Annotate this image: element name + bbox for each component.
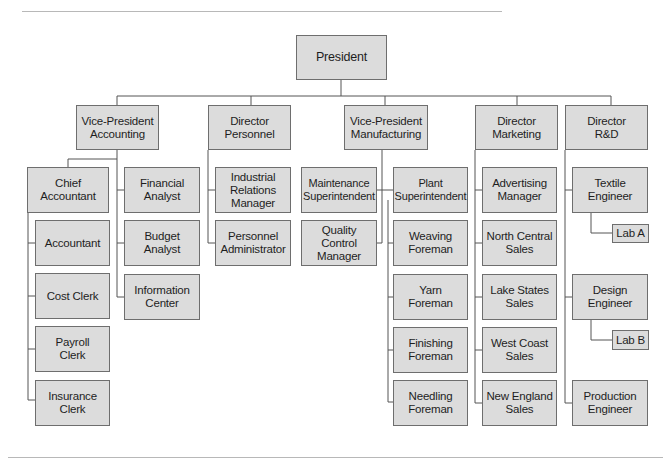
box-accountant: Accountant: [35, 220, 110, 266]
box-yarn-foreman: Yarn Foreman: [393, 274, 468, 320]
box-north-central-sales: North Central Sales: [482, 220, 557, 266]
box-quality-control-manager: Quality Control Manager: [301, 220, 377, 266]
box-payroll-clerk: Payroll Clerk: [35, 326, 110, 372]
box-lab-b: Lab B: [612, 330, 649, 350]
box-needling-foreman: Needling Foreman: [393, 380, 468, 426]
box-textile-engineer: Textile Engineer: [572, 167, 648, 213]
box-cost-clerk: Cost Clerk: [35, 273, 110, 319]
box-advertising-manager: Advertising Manager: [482, 167, 557, 213]
box-insurance-clerk: Insurance Clerk: [35, 380, 110, 426]
box-west-coast-sales: West Coast Sales: [482, 327, 557, 373]
box-vp-accounting: Vice-President Accounting: [76, 105, 159, 150]
box-industrial-relations-manager: Industrial Relations Manager: [215, 167, 291, 213]
box-production-engineer: Production Engineer: [572, 380, 648, 426]
box-plant-superintendent: Plant Superintendent: [393, 167, 468, 213]
box-director-marketing: Director Marketing: [475, 105, 558, 150]
box-director-rd: Director R&D: [565, 105, 648, 150]
box-vp-manufacturing: Vice-President Manufacturing: [344, 105, 428, 150]
box-design-engineer: Design Engineer: [572, 274, 648, 320]
box-chief-accountant: Chief Accountant: [27, 167, 109, 213]
box-personnel-administrator: Personnel Administrator: [215, 220, 291, 266]
box-lake-states-sales: Lake States Sales: [482, 274, 557, 320]
box-new-england-sales: New England Sales: [482, 380, 557, 426]
box-director-personnel: Director Personnel: [208, 105, 291, 150]
box-information-center: Information Center: [124, 274, 200, 320]
box-finishing-foreman: Finishing Foreman: [393, 327, 468, 373]
box-president: President: [296, 35, 387, 80]
box-maintenance-superintendent: Maintenance Superintendent: [301, 167, 377, 213]
box-lab-a: Lab A: [612, 224, 649, 243]
box-budget-analyst: Budget Analyst: [124, 220, 200, 266]
box-financial-analyst: Financial Analyst: [124, 167, 200, 213]
box-weaving-foreman: Weaving Foreman: [393, 220, 468, 266]
